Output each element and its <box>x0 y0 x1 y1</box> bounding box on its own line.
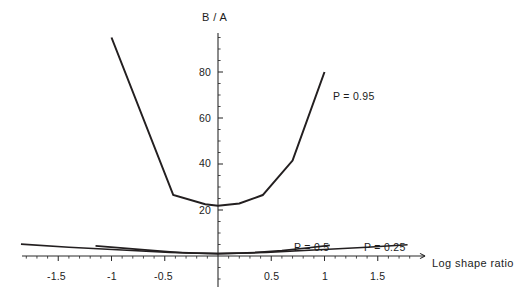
y-tick-label-20: 20 <box>199 205 211 216</box>
x-tick-label-neg0-5: -0.5 <box>154 271 173 282</box>
data-curves-group <box>21 38 408 254</box>
x-tick-label-0-5: 0.5 <box>264 271 279 282</box>
series-label-p095: P = 0.95 <box>333 91 375 102</box>
y-tick-label-60: 60 <box>199 113 211 124</box>
x-tick-label-neg1-5: -1.5 <box>47 271 66 282</box>
y-tick-label-80: 80 <box>199 67 211 78</box>
x-tick-label-1: 1 <box>322 271 328 282</box>
x-tick-label-1-5: 1.5 <box>370 271 385 282</box>
y-tick-label-40: 40 <box>199 158 211 169</box>
series-curve-2 <box>21 244 408 254</box>
series-label-p025: P = 0.25 <box>364 242 406 253</box>
y-axis-title: B / A <box>202 12 227 23</box>
series-label-p05: P = 0.5 <box>294 242 329 253</box>
x-axis-title: Log shape ratio <box>432 258 514 269</box>
x-tick-label-neg1: -1 <box>107 271 117 282</box>
